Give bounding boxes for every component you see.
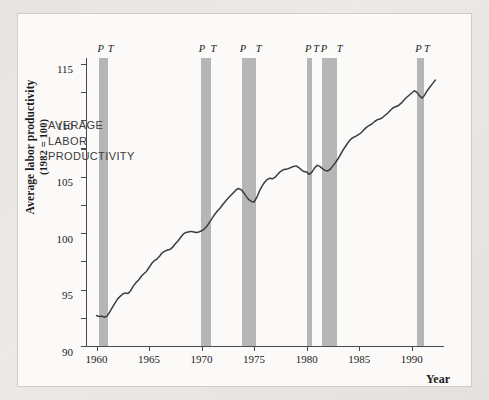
x-tick-label: 1970 <box>191 353 213 365</box>
x-tick <box>412 346 413 351</box>
x-tick-label: 1990 <box>401 353 423 365</box>
peak-label: P <box>305 43 311 54</box>
x-axis-title: Year <box>426 372 450 387</box>
y-axis-title: Average labor productivity (1982 = 100) <box>24 42 50 252</box>
trough-label: T <box>211 43 217 54</box>
y-tick: 70 <box>81 318 86 319</box>
trough-label: T <box>108 43 114 54</box>
y-axis-line <box>86 58 87 346</box>
y-tick-label: 90 <box>62 346 73 358</box>
annotation-line-3: PRODUCTIVITY <box>48 149 135 165</box>
y-tick: 75 <box>81 290 86 291</box>
trough-label: T <box>256 43 262 54</box>
series-annotation: AVERAGE LABOR PRODUCTIVITY <box>48 118 135 165</box>
x-tick-label: 1980 <box>296 353 318 365</box>
x-tick <box>307 346 308 351</box>
y-tick-label: 95 <box>62 289 73 301</box>
peak-label: P <box>240 43 246 54</box>
trough-label: T <box>337 43 343 54</box>
y-tick: 80 <box>81 261 86 262</box>
plot-area: 65707580859095100105110115 1960196519701… <box>86 58 438 346</box>
y-tick: 110 <box>81 92 86 93</box>
y-tick: 90 <box>81 205 86 206</box>
x-tick-label: 1975 <box>243 353 265 365</box>
x-tick <box>202 346 203 351</box>
x-tick <box>97 346 98 351</box>
productivity-line <box>86 58 438 346</box>
y-tick-label: 105 <box>57 176 74 188</box>
trough-label: T <box>313 43 319 54</box>
figure-page: Average labor productivity (1982 = 100) … <box>0 0 489 400</box>
y-tick: 85 <box>81 233 86 234</box>
trough-label: T <box>424 43 430 54</box>
productivity-line-path <box>97 80 436 317</box>
x-tick-label: 1985 <box>348 353 370 365</box>
annotation-line-2: LABOR <box>48 134 135 150</box>
y-tick: 65 <box>81 346 86 347</box>
y-tick: 95 <box>81 177 86 178</box>
y-tick-label: 115 <box>57 63 73 75</box>
annotation-line-1: AVERAGE <box>48 118 135 134</box>
chart-figure: Average labor productivity (1982 = 100) … <box>18 14 471 386</box>
y-tick: 115 <box>81 64 86 65</box>
peak-label: P <box>199 43 205 54</box>
x-tick-label: 1965 <box>138 353 160 365</box>
x-axis-line <box>86 346 444 347</box>
y-axis-title-line1: Average labor productivity <box>24 80 36 215</box>
peak-label: P <box>321 43 327 54</box>
x-tick <box>149 346 150 351</box>
peak-label: P <box>97 43 103 54</box>
x-tick-label: 1960 <box>86 353 108 365</box>
y-tick-label: 100 <box>57 233 74 245</box>
x-tick <box>254 346 255 351</box>
peak-label: P <box>415 43 421 54</box>
x-tick <box>359 346 360 351</box>
